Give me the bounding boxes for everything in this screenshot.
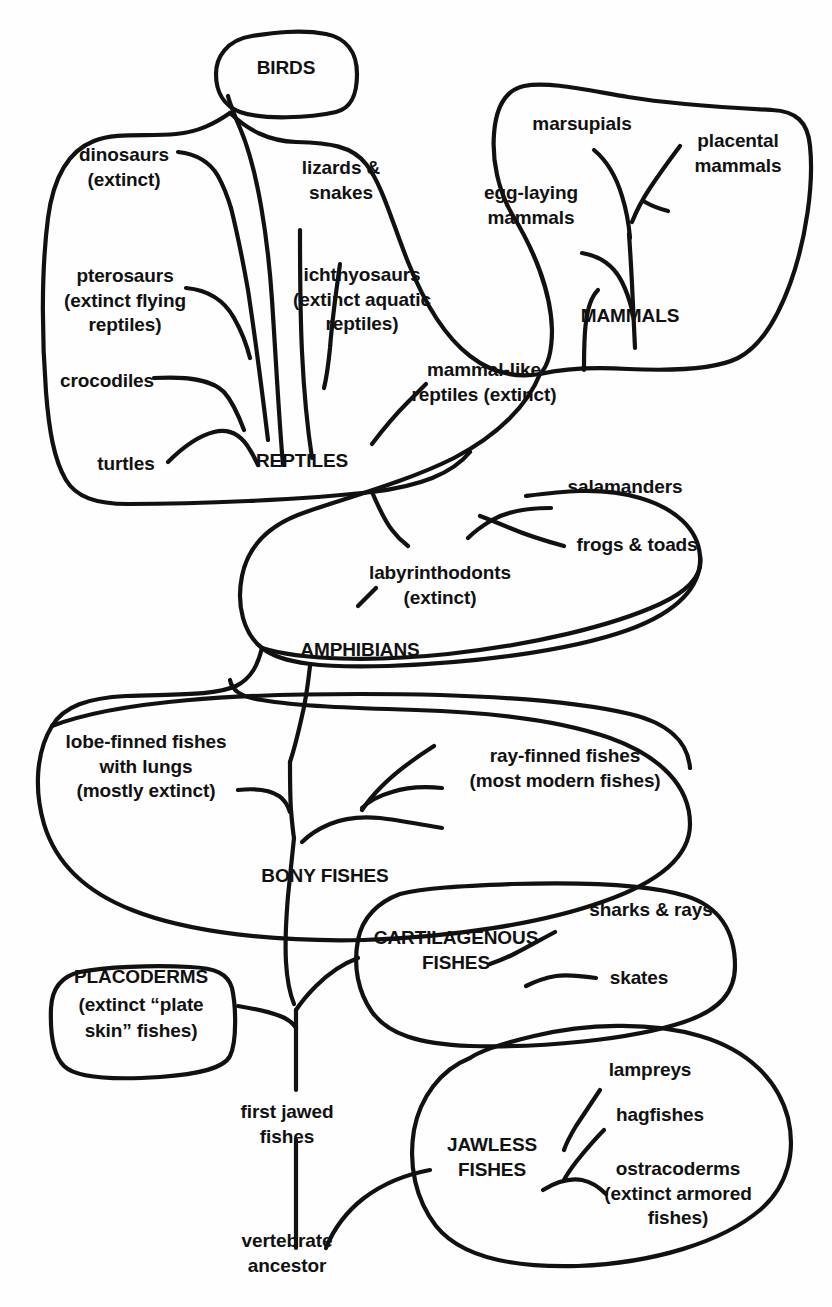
taxon-label-salamanders: salamanders <box>567 475 682 500</box>
taxon-label-crocodiles: crocodiles <box>60 369 154 394</box>
node-label-first-jawed-fishes: first jawed fishes <box>241 1100 334 1149</box>
group-label-cartilagenous-fishes-line1: CARTILAGENOUS <box>374 926 538 951</box>
diagram-canvas: BIRDS dinosaurs (extinct) pterosaurs (ex… <box>0 0 832 1307</box>
taxon-label-frogs-toads: frogs & toads <box>576 533 697 558</box>
taxon-label-hagfishes: hagfishes <box>616 1103 704 1128</box>
branch-mammals-stem <box>584 290 598 370</box>
branch-salamanders <box>468 508 551 538</box>
group-label-bony-fishes: BONY FISHES <box>261 864 388 889</box>
taxon-label-egg-laying-mammals: egg-laying mammals <box>484 181 578 230</box>
branch-turtles <box>168 431 258 465</box>
taxon-label-ostracoderms: ostracoderms (extinct armored fishes) <box>604 1157 751 1231</box>
branch-placental-fork <box>645 202 668 211</box>
taxon-label-placental-mammals: placental mammals <box>695 129 782 178</box>
taxon-label-lampreys: lampreys <box>609 1058 692 1083</box>
taxon-label-placoderms-desc-line2: skin” fishes) <box>85 1019 198 1044</box>
branch-cartilagenous-stem <box>296 958 358 1010</box>
taxon-label-turtles: turtles <box>97 452 154 477</box>
group-label-placoderms: PLACODERMS <box>74 965 208 990</box>
group-label-birds: BIRDS <box>257 56 316 81</box>
branch-labyrinthodonts <box>372 492 408 546</box>
branch-placental-mammals <box>632 146 680 222</box>
taxon-label-ray-finned-fishes: ray-finned fishes (most modern fishes) <box>469 744 660 793</box>
branch-placoderms-stem <box>238 1006 296 1028</box>
branch-marsupials <box>594 150 630 238</box>
branch-crocodiles <box>154 378 244 430</box>
amphibians-group-outline <box>240 374 700 666</box>
branch-mammals-trunk <box>629 234 635 348</box>
branch-ray-finned-lower <box>302 817 442 842</box>
branch-bony-fishes-trunk <box>290 762 294 838</box>
taxon-label-lizards-snakes: lizards & snakes <box>302 156 380 205</box>
taxon-label-sharks-rays: sharks & rays <box>589 898 712 923</box>
branch-frogs-toads <box>480 516 564 546</box>
branch-ray-finned-mid <box>362 787 442 808</box>
taxon-label-lobe-finned-fishes: lobe-finned fishes with lungs (mostly ex… <box>66 730 227 804</box>
group-label-amphibians: AMPHIBIANS <box>300 638 419 663</box>
taxon-label-marsupials: marsupials <box>532 112 631 137</box>
taxon-label-ichthyosaurs: ichthyosaurs (extinct aquatic reptiles) <box>293 263 431 337</box>
group-label-jawless-fishes-line2: FISHES <box>458 1158 526 1183</box>
group-label-jawless-fishes-line1: JAWLESS <box>447 1133 537 1158</box>
group-label-cartilagenous-fishes-line2: FISHES <box>422 951 490 976</box>
branch-pterosaurs <box>186 288 250 358</box>
group-label-reptiles: REPTILES <box>256 449 348 474</box>
branch-ostracoderms <box>543 1179 606 1194</box>
branch-amphibians-stem <box>290 666 310 762</box>
branch-bony-fishes-stem <box>286 838 294 1004</box>
group-label-mammals: MAMMALS <box>581 304 680 329</box>
taxon-label-dinosaurs: dinosaurs (extinct) <box>79 143 169 192</box>
branch-lobe-finned <box>238 789 290 812</box>
taxon-label-labyrinthodonts: labyrinthodonts (extinct) <box>369 561 511 610</box>
branch-skates <box>526 975 596 986</box>
taxon-label-skates: skates <box>610 966 669 991</box>
node-label-vertebrate-ancestor: vertebrate ancestor <box>242 1229 333 1278</box>
branch-dinosaurs <box>178 152 231 208</box>
taxon-label-pterosaurs: pterosaurs (extinct flying reptiles) <box>64 264 186 338</box>
taxon-label-mammal-like-reptiles: mammal-like reptiles (extinct) <box>412 358 557 407</box>
taxon-label-placoderms-desc-line1: (extinct “plate <box>78 993 203 1018</box>
